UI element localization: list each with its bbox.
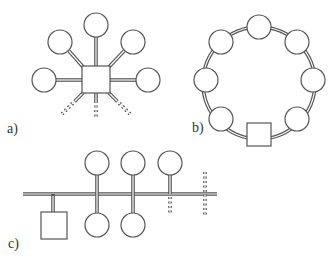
star-node-upper-left bbox=[48, 30, 72, 54]
bus-node-top-1 bbox=[85, 151, 109, 175]
bus-node-bottom-2 bbox=[121, 213, 145, 237]
ring-node-left bbox=[194, 68, 218, 92]
panel-b-label: b) bbox=[192, 120, 204, 136]
star-node-right bbox=[136, 68, 160, 92]
panel-a-label: a) bbox=[7, 121, 18, 137]
ring-node-lower-right bbox=[285, 107, 309, 131]
bus-node-bottom-1 bbox=[85, 213, 109, 237]
star-node-top bbox=[84, 13, 108, 37]
ring-node-lower-left bbox=[209, 107, 233, 131]
panel-b-ring: b) bbox=[192, 15, 325, 146]
star-node-left bbox=[32, 68, 56, 92]
ring-node-upper-right bbox=[285, 30, 309, 54]
bus-hub-square bbox=[41, 212, 67, 239]
ring-node-top bbox=[247, 15, 271, 39]
panel-c-bus: c) bbox=[8, 151, 217, 252]
panel-a-star: a) bbox=[7, 13, 160, 137]
topology-diagram: a) b) bbox=[0, 0, 333, 257]
star-hub-square bbox=[82, 66, 110, 93]
ring-node-right bbox=[301, 68, 325, 92]
panel-c-label: c) bbox=[8, 236, 19, 252]
star-node-upper-right bbox=[121, 30, 145, 54]
ring-hub-square bbox=[247, 123, 271, 146]
ring-node-upper-left bbox=[209, 30, 233, 54]
bus-node-top-2 bbox=[121, 151, 145, 175]
bus-node-top-3 bbox=[158, 151, 182, 175]
